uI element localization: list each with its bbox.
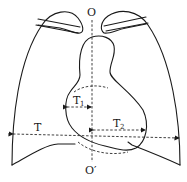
left-clavicle-lower bbox=[36, 25, 78, 33]
label-t: T bbox=[34, 121, 42, 134]
label-o: O bbox=[87, 6, 96, 19]
label-t2-subscript: 2 bbox=[120, 123, 124, 131]
thoracic-width-line bbox=[13, 134, 179, 138]
right-lung-base bbox=[128, 142, 180, 165]
right-lung-outline bbox=[101, 11, 180, 165]
label-o-prime: O′ bbox=[85, 164, 97, 177]
heart-inferior-dashed-contour bbox=[78, 142, 128, 154]
heart-top-dashed-contour bbox=[74, 86, 108, 92]
label-t1-subscript: 1 bbox=[80, 100, 84, 108]
left-lung-base bbox=[12, 144, 75, 165]
cardiothoracic-diagram: O O′ T T 1 T 2 bbox=[0, 0, 187, 182]
